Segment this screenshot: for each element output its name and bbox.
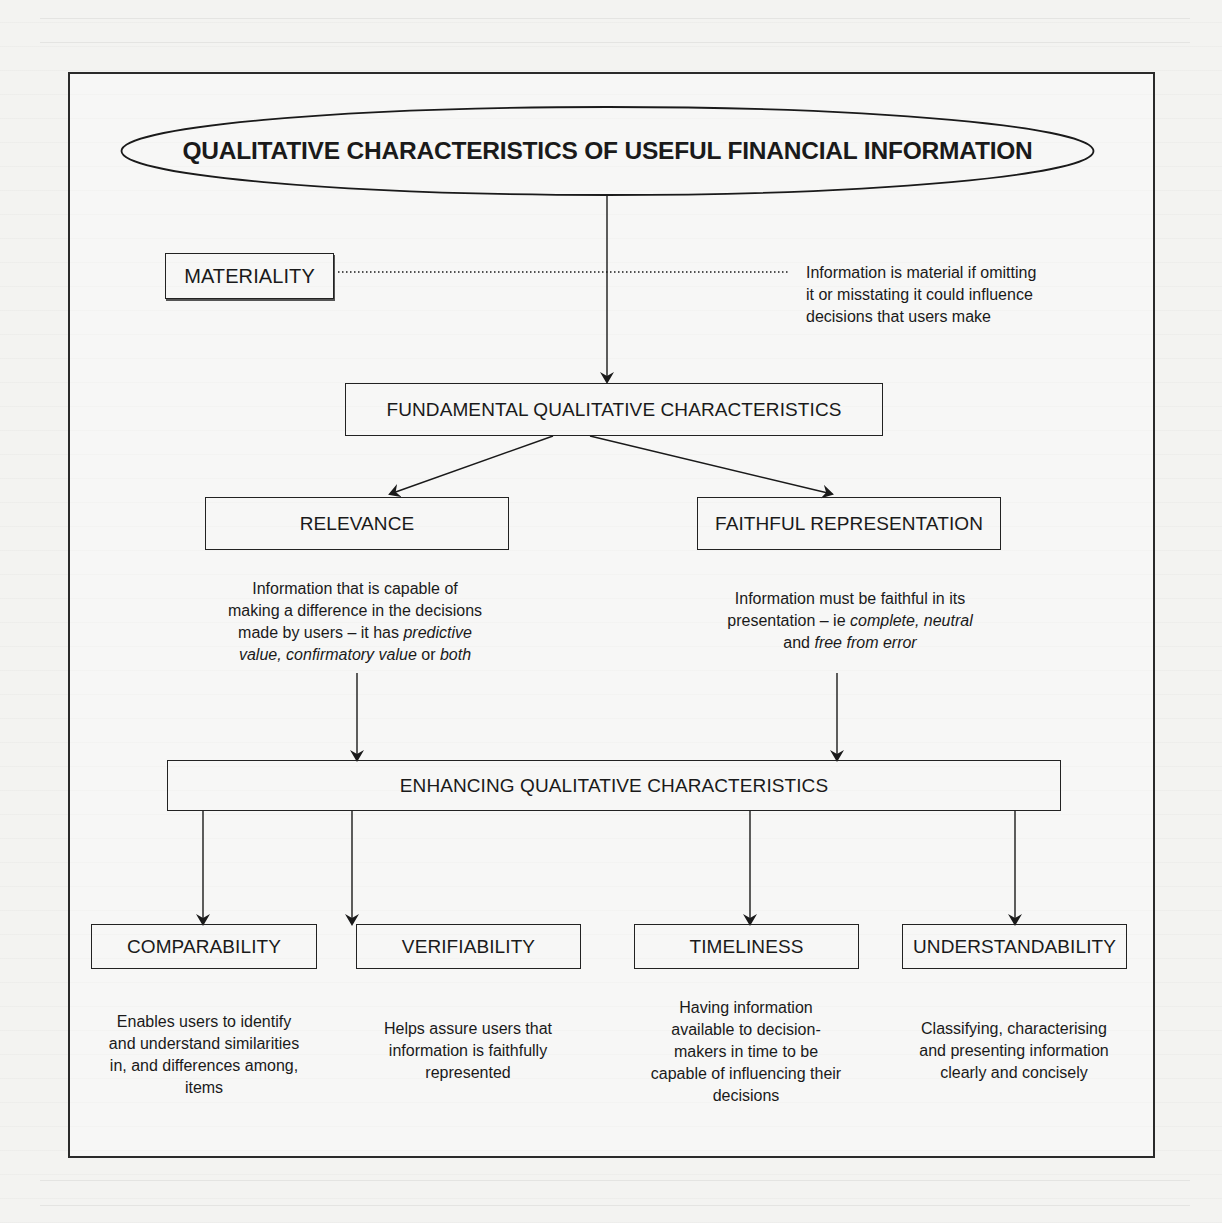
comparability-description-line: and understand similarities [84, 1033, 324, 1055]
text-run: presentation – ie [727, 612, 850, 629]
italic-text-run: predictive [403, 624, 471, 641]
bleed-through-line [40, 18, 1190, 19]
diagram-title: QUALITATIVE CHARACTERISTICS OF USEFUL FI… [121, 107, 1094, 195]
fundamental-label: FUNDAMENTAL QUALITATIVE CHARACTERISTICS [386, 399, 841, 421]
comparability-description: Enables users to identify and understand… [84, 1011, 324, 1099]
understandability-description-line: Classifying, characterising [894, 1018, 1134, 1040]
fundamental-box: FUNDAMENTAL QUALITATIVE CHARACTERISTICS [345, 383, 883, 436]
relevance-description-line: made by users – it has predictive [195, 622, 515, 644]
enhancing-label: ENHANCING QUALITATIVE CHARACTERISTICS [400, 775, 828, 797]
timeliness-description: Having information available to decision… [626, 997, 866, 1107]
verifiability-description: Helps assure users that information is f… [348, 1018, 588, 1084]
relevance-description-line: Information that is capable of [195, 578, 515, 600]
relevance-description-line: value, confirmatory value or both [195, 644, 515, 666]
understandability-box: UNDERSTANDABILITY [902, 924, 1127, 969]
timeliness-box: TIMELINESS [634, 924, 859, 969]
timeliness-description-line: makers in time to be [626, 1041, 866, 1063]
timeliness-description-line: available to decision- [626, 1019, 866, 1041]
materiality-box: MATERIALITY [165, 253, 334, 299]
enhancing-box: ENHANCING QUALITATIVE CHARACTERISTICS [167, 760, 1061, 811]
comparability-description-line: Enables users to identify [84, 1011, 324, 1033]
relevance-label: RELEVANCE [300, 513, 415, 535]
verifiability-description-line: information is faithfully [348, 1040, 588, 1062]
materiality-label: MATERIALITY [184, 265, 315, 288]
materiality-description-line: it or misstating it could influence [806, 284, 1036, 306]
text-run: made by users – it has [238, 624, 403, 641]
relevance-box: RELEVANCE [205, 497, 509, 550]
timeliness-description-line: decisions [626, 1085, 866, 1107]
bleed-through-line [40, 1205, 1190, 1206]
faithful-description-line: and free from error [690, 632, 1010, 654]
text-run: and [783, 634, 814, 651]
comparability-description-line: items [84, 1077, 324, 1099]
materiality-description: Information is material if omitting it o… [806, 262, 1036, 328]
verifiability-box: VERIFIABILITY [356, 924, 581, 969]
faithful-description-line: presentation – ie complete, neutral [690, 610, 1010, 632]
timeliness-label: TIMELINESS [690, 936, 804, 958]
italic-text-run: both [440, 646, 471, 663]
verifiability-description-line: Helps assure users that [348, 1018, 588, 1040]
understandability-label: UNDERSTANDABILITY [913, 936, 1116, 958]
italic-text-run: value, confirmatory value [239, 646, 417, 663]
understandability-description-line: and presenting information [894, 1040, 1134, 1062]
understandability-description: Classifying, characterising and presenti… [894, 1018, 1134, 1084]
relevance-description-line: making a difference in the decisions [195, 600, 515, 622]
comparability-description-line: in, and differences among, [84, 1055, 324, 1077]
relevance-description: Information that is capable of making a … [195, 578, 515, 666]
understandability-description-line: clearly and concisely [894, 1062, 1134, 1084]
comparability-label: COMPARABILITY [127, 936, 281, 958]
bleed-through-line [40, 42, 1190, 43]
verifiability-label: VERIFIABILITY [402, 936, 535, 958]
italic-text-run: free from error [814, 634, 916, 651]
timeliness-description-line: Having information [626, 997, 866, 1019]
faithful-representation-description: Information must be faithful in its pres… [690, 588, 1010, 654]
italic-text-run: complete, neutral [850, 612, 973, 629]
timeliness-description-line: capable of influencing their [626, 1063, 866, 1085]
bleed-through-line [40, 1180, 1190, 1181]
materiality-description-line: decisions that users make [806, 306, 1036, 328]
text-run: or [417, 646, 440, 663]
verifiability-description-line: represented [348, 1062, 588, 1084]
faithful-representation-label: FAITHFUL REPRESENTATION [715, 513, 983, 535]
comparability-box: COMPARABILITY [91, 924, 317, 969]
materiality-description-line: Information is material if omitting [806, 262, 1036, 284]
faithful-representation-box: FAITHFUL REPRESENTATION [697, 497, 1001, 550]
faithful-description-line: Information must be faithful in its [690, 588, 1010, 610]
